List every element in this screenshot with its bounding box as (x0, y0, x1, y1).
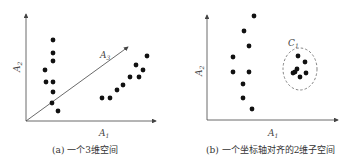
data-point (145, 54, 150, 59)
data-point (134, 63, 139, 68)
x-axis-label: A1 (98, 128, 109, 139)
data-point (241, 82, 246, 87)
panel-a: A3 A2 A1 (12, 14, 156, 139)
data-point (51, 59, 56, 64)
data-point (247, 44, 252, 49)
caption-a: (a) 一个3维空间 (52, 143, 118, 156)
data-point (108, 96, 113, 101)
data-point (56, 109, 61, 114)
data-point (50, 101, 55, 106)
z-axis-label: A3 (99, 50, 111, 61)
data-point (141, 68, 146, 73)
data-point (250, 107, 255, 112)
data-point (241, 96, 246, 101)
cluster-ellipse (283, 48, 317, 90)
panel-b: A2 A1 C1 (194, 14, 338, 139)
data-point (121, 83, 126, 88)
cluster-points (291, 54, 309, 80)
data-point (303, 60, 308, 65)
data-point (291, 71, 296, 76)
data-point (247, 70, 252, 75)
data-point (296, 54, 301, 59)
caption-b: (b) 一个坐标轴对齐的2维子空间 (206, 143, 335, 156)
y-axis-label: A2 (12, 62, 23, 74)
diagram-canvas: A3 A2 A1 A2 A1 C1 (0, 0, 352, 165)
data-point (231, 70, 236, 75)
data-point (252, 14, 257, 19)
x-axis-label: A1 (267, 128, 278, 139)
data-points (231, 14, 257, 112)
z-axis (26, 47, 128, 121)
data-point (43, 68, 48, 73)
data-point (298, 75, 303, 80)
data-point (242, 29, 247, 34)
data-point (51, 80, 56, 85)
data-point (51, 51, 56, 56)
data-point (115, 88, 120, 93)
data-point (304, 71, 309, 76)
data-point (231, 55, 236, 60)
data-point (137, 75, 142, 80)
data-point (51, 38, 56, 43)
data-points (43, 38, 150, 114)
data-point (128, 75, 133, 80)
data-point (44, 80, 49, 85)
y-axis-label: A2 (194, 66, 205, 78)
data-point (100, 96, 105, 101)
data-point (51, 90, 56, 95)
cluster-label: C1 (288, 38, 299, 49)
